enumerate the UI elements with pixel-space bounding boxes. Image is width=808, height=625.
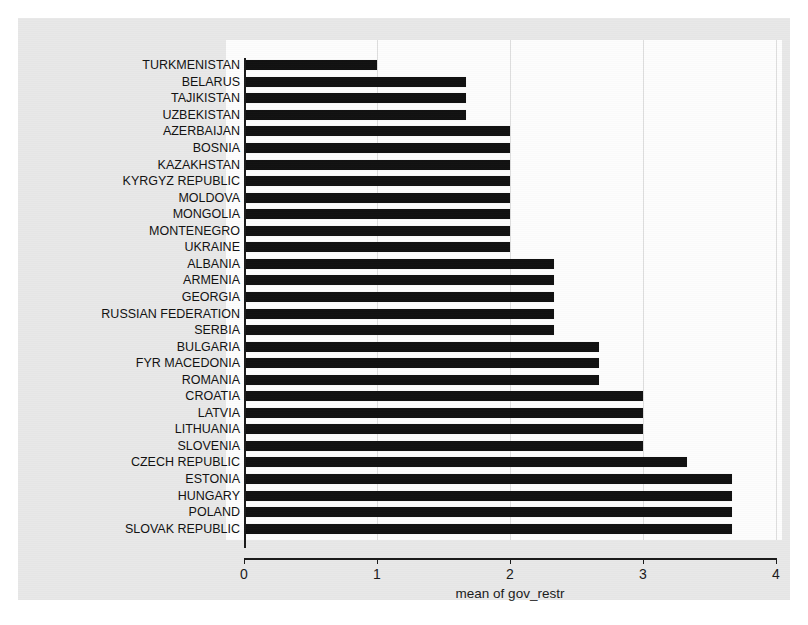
x-tick-2 — [510, 558, 511, 564]
category-label: ALBANIA — [187, 258, 240, 271]
category-label: SERBIA — [194, 324, 240, 337]
bar — [246, 524, 732, 534]
bar — [246, 93, 466, 103]
bar — [246, 242, 510, 252]
bar — [246, 441, 643, 451]
category-label: BULGARIA — [177, 341, 240, 354]
category-label: CZECH REPUBLIC — [131, 456, 240, 469]
category-label: GEORGIA — [182, 291, 240, 304]
category-label: ARMENIA — [183, 274, 240, 287]
x-tick-0 — [244, 558, 245, 564]
category-label: SLOVAK REPUBLIC — [125, 523, 240, 536]
bar — [246, 507, 732, 517]
category-label: POLAND — [189, 506, 240, 519]
bar — [246, 259, 554, 269]
x-tick-label-4: 4 — [772, 566, 780, 582]
x-tick-1 — [377, 558, 378, 564]
category-label: LATVIA — [198, 407, 240, 420]
x-tick-label-0: 0 — [240, 566, 248, 582]
bar — [246, 342, 599, 352]
category-label: RUSSIAN FEDERATION — [101, 308, 240, 321]
x-tick-3 — [643, 558, 644, 564]
figure-background: TURKMENISTANBELARUSTAJIKISTANUZBEKISTANA… — [18, 18, 790, 600]
category-label: UZBEKISTAN — [162, 109, 240, 122]
category-label: CROATIA — [185, 390, 240, 403]
category-label: ESTONIA — [185, 473, 240, 486]
category-label: TURKMENISTAN — [142, 59, 240, 72]
bar — [246, 209, 510, 219]
bar-rows: TURKMENISTANBELARUSTAJIKISTANUZBEKISTANA… — [18, 18, 808, 558]
x-axis-title: mean of gov_restr — [244, 586, 776, 601]
category-label: LITHUANIA — [175, 423, 240, 436]
bar — [246, 375, 599, 385]
bar — [246, 60, 377, 70]
bar — [246, 457, 687, 467]
category-label: KAZAKHSTAN — [158, 159, 240, 172]
y-axis-line — [244, 58, 246, 548]
bar — [246, 474, 732, 484]
category-label: AZERBAIJAN — [163, 125, 240, 138]
x-tick-label-2: 2 — [506, 566, 514, 582]
bar — [246, 160, 510, 170]
bar — [246, 491, 732, 501]
category-label: FYR MACEDONIA — [136, 357, 240, 370]
category-label: UKRAINE — [184, 241, 240, 254]
bar — [246, 292, 554, 302]
category-label: KYRGYZ REPUBLIC — [123, 175, 240, 188]
bar — [246, 358, 599, 368]
bar — [246, 110, 466, 120]
category-label: BOSNIA — [193, 142, 240, 155]
category-label: MOLDOVA — [178, 192, 240, 205]
category-label: HUNGARY — [178, 490, 240, 503]
category-label: SLOVENIA — [177, 440, 240, 453]
bar — [246, 408, 643, 418]
bar — [246, 424, 643, 434]
category-label: MONTENEGRO — [149, 225, 240, 238]
bar — [246, 391, 643, 401]
category-label: TAJIKISTAN — [171, 92, 240, 105]
category-label: ROMANIA — [182, 374, 240, 387]
x-tick-label-3: 3 — [639, 566, 647, 582]
bar — [246, 226, 510, 236]
category-label: MONGOLIA — [173, 208, 240, 221]
category-label: BELARUS — [182, 76, 240, 89]
bar — [246, 275, 554, 285]
bar — [246, 143, 510, 153]
bar — [246, 77, 466, 87]
bar — [246, 325, 554, 335]
x-tick-label-1: 1 — [373, 566, 381, 582]
x-tick-4 — [776, 558, 777, 564]
bar — [246, 176, 510, 186]
bar — [246, 309, 554, 319]
bar — [246, 193, 510, 203]
bar — [246, 126, 510, 136]
